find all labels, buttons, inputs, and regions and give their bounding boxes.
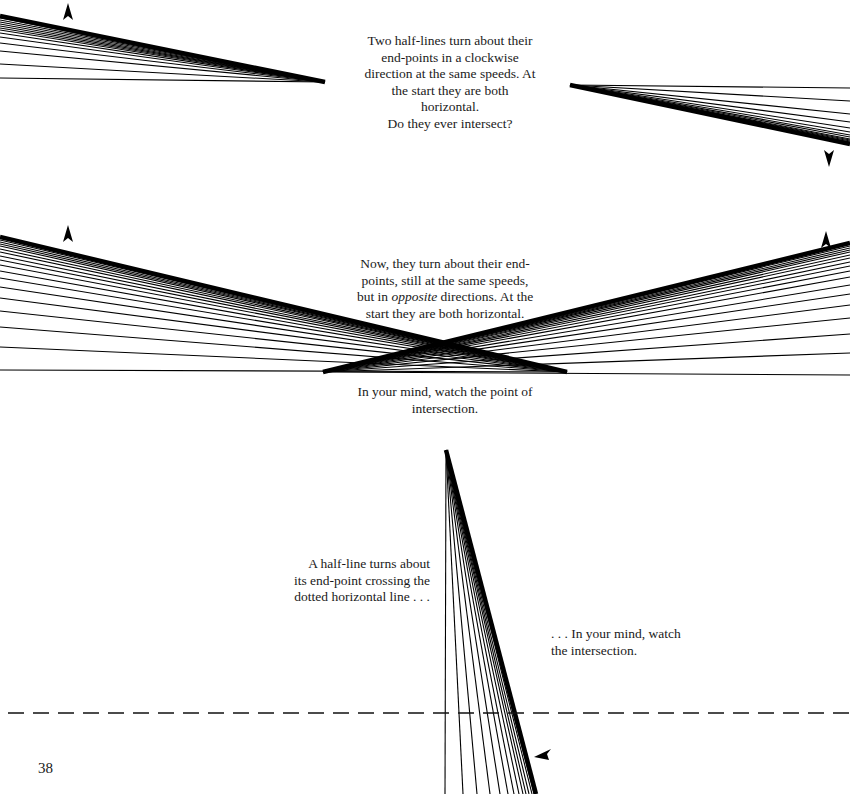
- fig2-right-arrow-icon: [821, 231, 831, 248]
- half-line: [0, 370, 567, 372]
- caption-clockwise: Two half-lines turn about their end-poin…: [345, 33, 555, 133]
- half-line: [446, 450, 514, 794]
- half-line: [446, 450, 519, 794]
- half-line: [0, 78, 325, 82]
- half-line: [570, 85, 850, 128]
- caption-opposite-directions: Now, they turn about their end- points, …: [333, 256, 557, 322]
- fig1-left-arrow-icon: [63, 3, 73, 20]
- clockwise-left-half-line-fan: [0, 16, 325, 82]
- caption-watch-point: In your mind, watch the point of interse…: [340, 384, 550, 417]
- half-line: [323, 372, 850, 375]
- half-line: [446, 450, 490, 794]
- book-page: Two half-lines turn about their end-poin…: [0, 0, 850, 794]
- caption-watch-intersection: . . . In your mind, watch the intersecti…: [551, 626, 731, 659]
- half-line: [0, 37, 325, 82]
- caption-half-line: A half-line turns about its end-point cr…: [262, 556, 430, 606]
- half-line: [570, 85, 850, 144]
- fig3-arrow-icon: [534, 749, 551, 760]
- page-number: 38: [38, 760, 53, 777]
- clockwise-right-half-line-fan: [570, 85, 850, 144]
- crossing-half-line-fan: [445, 450, 536, 794]
- half-line: [446, 450, 508, 794]
- half-line: [445, 450, 446, 794]
- caption-opposite-emphasis: opposite: [391, 289, 437, 304]
- half-line: [446, 450, 536, 794]
- fig1-right-arrow-icon: [824, 150, 834, 167]
- fig2-left-arrow-icon: [63, 225, 73, 242]
